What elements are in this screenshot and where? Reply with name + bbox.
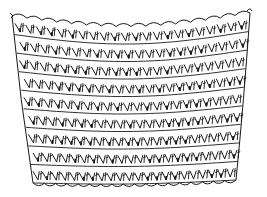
stitch-rows — [12, 13, 250, 184]
crochet-swatch-illustration — [0, 0, 267, 197]
illustration-canvas — [0, 0, 267, 197]
top-picot-border — [10, 9, 252, 27]
